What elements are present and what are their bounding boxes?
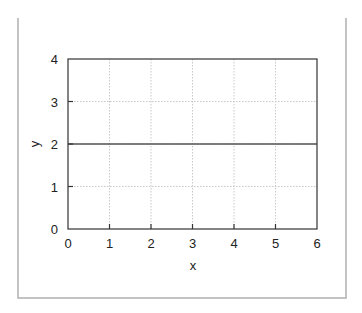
chart: 0123456 01234 x y [0,0,362,313]
x-tick-label: 6 [313,236,320,251]
y-tick-label: 3 [51,95,58,110]
x-tick-label: 3 [189,236,196,251]
x-tick-label: 0 [64,236,71,251]
figure-frame [18,18,346,298]
x-axis-label: x [190,258,197,273]
y-axis-label: y [27,140,42,147]
y-tick-labels: 01234 [51,52,58,237]
y-tick-label: 4 [51,52,58,67]
x-tick-labels: 0123456 [64,236,320,251]
x-tick-label: 5 [272,236,279,251]
x-tick-label: 2 [147,236,154,251]
axis-ticks [68,102,276,230]
x-tick-label: 1 [106,236,113,251]
y-tick-label: 0 [51,222,58,237]
y-tick-label: 1 [51,180,58,195]
x-tick-label: 4 [230,236,237,251]
y-tick-label: 2 [51,137,58,152]
